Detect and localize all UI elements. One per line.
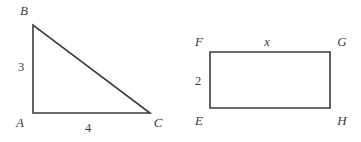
triangle-outline bbox=[33, 25, 150, 113]
vertex-label-a: A bbox=[15, 115, 24, 130]
vertex-label-b: B bbox=[20, 3, 28, 18]
vertex-label-e: E bbox=[194, 113, 203, 128]
figure-canvas: B A C 3 4 F G H E x 2 bbox=[0, 0, 361, 142]
side-length-fg: x bbox=[263, 35, 270, 49]
figure-triangle-abc: B A C 3 4 bbox=[15, 3, 163, 135]
vertex-label-c: C bbox=[154, 115, 163, 130]
rectangle-outline bbox=[210, 52, 330, 108]
vertex-label-g: G bbox=[337, 34, 347, 49]
vertex-label-f: F bbox=[194, 34, 204, 49]
figure-rectangle-efgh: F G H E x 2 bbox=[194, 34, 347, 128]
side-length-ac: 4 bbox=[85, 121, 92, 135]
vertex-label-h: H bbox=[336, 113, 347, 128]
geometry-diagram: B A C 3 4 F G H E x 2 bbox=[0, 0, 361, 142]
side-length-ab: 3 bbox=[18, 60, 24, 74]
side-length-ef: 2 bbox=[195, 74, 201, 88]
